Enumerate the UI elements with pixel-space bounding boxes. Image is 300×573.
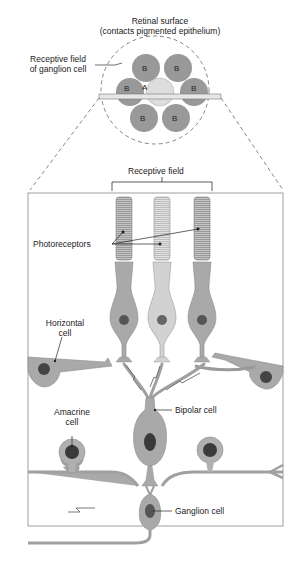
ganglion-cell-label: Ganglion cell [175,506,224,516]
receptive-field-ganglion-label: Receptive field of ganglion cell [18,54,98,74]
slice-bar [99,94,221,99]
horizontal-line2: cell [38,328,92,338]
circle-b-label-6: B [172,114,177,124]
receptive-field-label: Receptive field [128,166,184,176]
circle-b-3 [116,78,144,106]
title-line1: Retinal surface [95,16,225,26]
receptive-field-bracket [112,182,212,191]
amacrine-line2: cell [45,417,99,427]
photoreceptors [110,197,216,362]
amacrine-cell-label: Amacrine cell [45,407,99,427]
retina-diagram [0,0,300,573]
circle-b-label-5: B [140,114,145,124]
retinal-surface-title: Retinal surface (contacts pigmented epit… [95,16,225,36]
photoreceptors-label: Photoreceptors [33,239,91,249]
circle-b-label-1: B [142,64,147,74]
rf-line2: of ganglion cell [18,64,98,74]
horizontal-line1: Horizontal [38,318,92,328]
circle-b-label-4: B [191,84,196,94]
circle-a [146,78,174,106]
horizontal-cell-label: Horizontal cell [38,318,92,338]
circle-b-label-2: B [174,64,179,74]
rf-line1: Receptive field [18,54,98,64]
amacrine-line1: Amacrine [45,407,99,417]
bipolar-cell-label: Bipolar cell [175,405,217,415]
title-line2: (contacts pigmented epithelium) [95,26,225,36]
circle-b-label-3: B [124,84,129,94]
circle-a-label: A [142,83,147,93]
